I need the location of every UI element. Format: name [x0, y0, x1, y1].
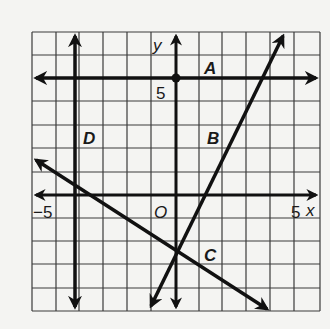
y-tick-5: 5 [156, 84, 165, 103]
origin-label: O [154, 203, 167, 222]
y-axis-label: y [152, 36, 163, 55]
x-axis-label: x [305, 201, 315, 220]
label-b: B [207, 129, 219, 148]
label-c: C [204, 246, 217, 265]
label-d: D [83, 129, 95, 148]
coordinate-plane: y x O 5 −5 5 A B C D [0, 0, 330, 329]
x-tick-neg5: −5 [33, 203, 52, 222]
label-a: A [203, 59, 216, 78]
point-y-intercept [172, 74, 181, 83]
x-tick-5: 5 [291, 203, 300, 222]
